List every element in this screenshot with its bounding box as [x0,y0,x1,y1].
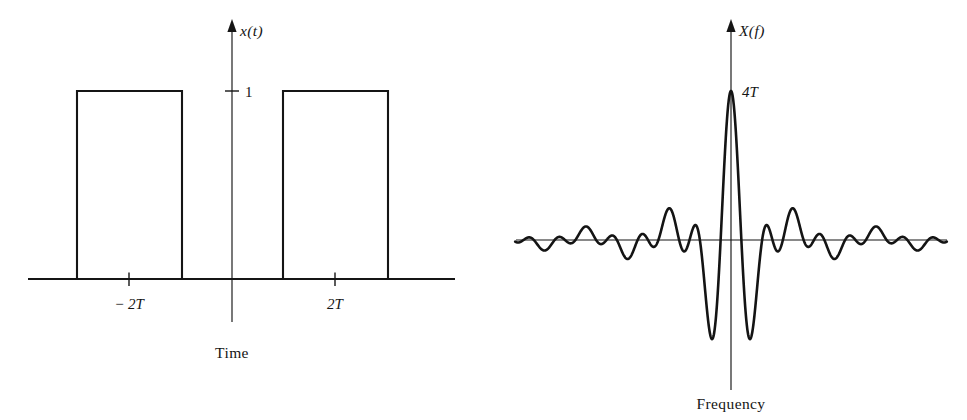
frequency-domain-caption: Frequency [696,395,765,412]
time-domain-caption: Time [215,344,249,361]
amplitude-tick-label-1: 1 [245,84,253,100]
time-tick-label-plus-2T: 2T [327,296,345,312]
time-domain-panel: x(t) 1 − 2T 2T Time [28,19,455,361]
time-domain-y-axis-label: x(t) [239,22,263,40]
amplitude-axis-arrowhead [227,19,236,32]
frequency-domain-y-axis-label: X(f) [738,22,765,40]
magnitude-axis-arrowhead [726,19,735,32]
two-pulse-fourier-transform-figure: x(t) 1 − 2T 2T Time X(f) 4T Frequency [0,0,967,420]
time-tick-label-minus-2T: − 2T [114,296,145,312]
peak-value-label: 4T [742,84,760,100]
pulse-left [77,91,182,279]
pulse-right [283,91,388,279]
frequency-domain-panel: X(f) 4T Frequency [515,19,947,412]
